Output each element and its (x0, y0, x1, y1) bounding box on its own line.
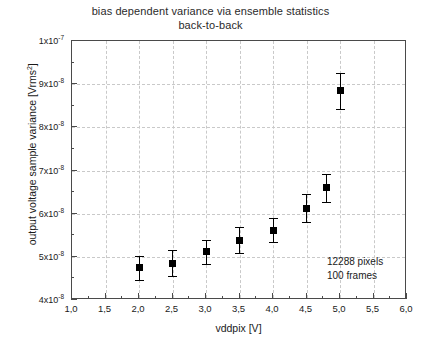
x-axis-minor-tick (155, 296, 156, 299)
y-axis-title-superscript: 2 (26, 66, 33, 70)
gridline-vertical (273, 41, 274, 298)
y-tick-exponent: -8 (58, 77, 64, 84)
error-bar-cap-lower (322, 202, 331, 203)
annotation-line-frames: 100 frames (327, 269, 383, 283)
x-axis-tick-label: 1,5 (90, 303, 120, 314)
chart-subtitle: back-to-back (0, 18, 421, 32)
x-axis-tick-label: 4,0 (257, 303, 287, 314)
y-tick-exponent: -8 (58, 293, 64, 300)
gridline-horizontal (72, 214, 405, 215)
gridline-horizontal (72, 171, 405, 172)
x-axis-minor-tick (356, 296, 357, 299)
y-axis-title-text: output voltage sample variance [Vrms (26, 70, 38, 245)
y-axis-tick (71, 40, 77, 41)
x-axis-tick (339, 293, 340, 299)
error-bar-cap-lower (135, 280, 144, 281)
data-point-marker (236, 237, 243, 244)
error-bar-cap-lower (269, 242, 278, 243)
y-tick-mantissa: 9x10 (39, 79, 59, 89)
gridline-vertical (240, 41, 241, 298)
x-axis-tick-label: 3,0 (190, 303, 220, 314)
error-bar-cap-upper (235, 227, 244, 228)
y-tick-exponent: -7 (58, 34, 64, 41)
y-axis-tick (71, 256, 77, 257)
y-tick-mantissa: 5x10 (39, 252, 59, 262)
x-axis-tick (272, 293, 273, 299)
x-axis-minor-tick (289, 296, 290, 299)
x-axis-minor-tick (389, 296, 390, 299)
y-axis-tick-label: 1x10-7 (16, 34, 64, 46)
data-point-marker (270, 227, 277, 234)
annotation-line-pixels: 12288 pixels (327, 255, 383, 269)
y-axis-minor-tick (71, 62, 74, 63)
y-axis-tick-label: 8x10-8 (16, 120, 64, 132)
y-tick-exponent: -8 (58, 207, 64, 214)
x-axis-tick (105, 293, 106, 299)
error-bar-cap-lower (336, 109, 345, 110)
y-axis-tick (71, 213, 77, 214)
x-axis-tick-label: 4,5 (291, 303, 321, 314)
x-axis-minor-tick (222, 296, 223, 299)
x-axis-tick-label: 5,5 (358, 303, 388, 314)
y-axis-minor-tick (71, 105, 74, 106)
chart-title-block: bias dependent variance via ensemble sta… (0, 4, 421, 32)
gridline-horizontal (72, 84, 405, 85)
x-axis-tick (71, 293, 72, 299)
data-point-marker (303, 205, 310, 212)
error-bar-cap-upper (168, 250, 177, 251)
y-tick-exponent: -8 (58, 164, 64, 171)
error-bar-cap-lower (302, 222, 311, 223)
y-axis-tick-label: 9x10-8 (16, 77, 64, 89)
data-point-marker (337, 87, 344, 94)
y-tick-exponent: -8 (58, 250, 64, 257)
x-axis-minor-tick (188, 296, 189, 299)
x-axis-minor-tick (88, 296, 89, 299)
error-bar-cap-upper (336, 73, 345, 74)
y-axis-minor-tick (71, 191, 74, 192)
x-axis-title: vddpix [V] (71, 322, 406, 334)
gridline-horizontal (72, 127, 405, 128)
y-axis-tick (71, 299, 77, 300)
error-bar-cap-lower (202, 264, 211, 265)
x-axis-tick (172, 293, 173, 299)
error-bar-cap-lower (235, 253, 244, 254)
y-axis-title-tail: ] (26, 63, 38, 66)
data-point-marker (136, 264, 143, 271)
x-axis-tick (306, 293, 307, 299)
y-axis-minor-tick (71, 148, 74, 149)
gridline-vertical (307, 41, 308, 298)
y-axis-tick-label: 7x10-8 (16, 164, 64, 176)
x-axis-tick (138, 293, 139, 299)
error-bar-cap-upper (302, 194, 311, 195)
y-tick-exponent: -8 (58, 120, 64, 127)
y-axis-tick-label: 6x10-8 (16, 207, 64, 219)
chart-title: bias dependent variance via ensemble sta… (0, 4, 421, 18)
x-axis-tick-label: 6,0 (391, 303, 421, 314)
data-point-marker (203, 248, 210, 255)
error-bar-cap-lower (168, 276, 177, 277)
x-axis-minor-tick (322, 296, 323, 299)
x-axis-minor-tick (121, 296, 122, 299)
y-axis-tick (71, 126, 77, 127)
y-tick-mantissa: 8x10 (39, 122, 59, 132)
x-axis-minor-tick (255, 296, 256, 299)
error-bar-cap-upper (269, 218, 278, 219)
y-tick-mantissa: 1x10 (39, 36, 59, 46)
y-tick-mantissa: 7x10 (39, 166, 59, 176)
y-axis-tick (71, 170, 77, 171)
chart-figure: bias dependent variance via ensemble sta… (0, 0, 421, 346)
y-axis-title: output voltage sample variance [Vrms2] (26, 24, 39, 284)
error-bar-cap-upper (322, 174, 331, 175)
x-axis-tick (239, 293, 240, 299)
gridline-vertical (106, 41, 107, 298)
error-bar-cap-upper (135, 256, 144, 257)
x-axis-tick (205, 293, 206, 299)
chart-annotation: 12288 pixels 100 frames (327, 255, 383, 283)
x-axis-tick (406, 293, 407, 299)
x-axis-tick-label: 3,5 (224, 303, 254, 314)
y-axis-tick-label: 5x10-8 (16, 250, 64, 262)
y-axis-minor-tick (71, 234, 74, 235)
x-axis-tick (373, 293, 374, 299)
error-bar-cap-upper (202, 240, 211, 241)
x-axis-tick-label: 1,0 (56, 303, 86, 314)
